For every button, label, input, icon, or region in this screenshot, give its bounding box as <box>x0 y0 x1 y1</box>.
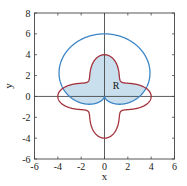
y-tick-label: 6 <box>26 28 31 39</box>
chart: R -6-4-20246 -6-4-202468 x y <box>0 0 187 186</box>
x-tick-label: 6 <box>172 161 177 172</box>
x-tick-label: 2 <box>125 161 130 172</box>
region-label: R <box>113 80 120 91</box>
x-tick-label: -4 <box>54 161 62 172</box>
plot-area: R <box>35 13 175 159</box>
x-tick-label: -6 <box>30 161 38 172</box>
y-tick-label: 4 <box>26 49 31 60</box>
y-tick-label: 0 <box>26 91 31 102</box>
y-tick-label: -6 <box>22 154 30 165</box>
y-axis-label: y <box>2 83 14 89</box>
y-tick-label: 8 <box>26 8 31 19</box>
x-axis-label: x <box>102 170 108 182</box>
y-tick-label: 2 <box>26 70 31 81</box>
y-tick-label: -4 <box>22 133 30 144</box>
x-tick-label: -2 <box>77 161 85 172</box>
y-tick-label: -2 <box>22 112 30 123</box>
x-tick-label: 4 <box>149 161 154 172</box>
